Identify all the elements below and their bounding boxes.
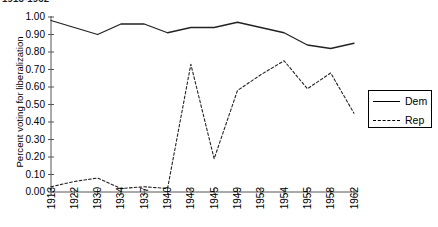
x-tick-label: 1945 xyxy=(209,187,220,227)
line-chart: 1913-1962 Percent voting for liberalizat… xyxy=(0,0,438,227)
legend-line-solid-icon xyxy=(373,96,400,106)
legend: Dem Rep xyxy=(368,90,432,128)
x-tick-label: 1922 xyxy=(69,187,80,227)
legend-label-rep: Rep xyxy=(405,115,424,125)
legend-line-dashed-icon xyxy=(373,115,400,125)
x-tick-label: 1953 xyxy=(255,187,266,227)
legend-label-dem: Dem xyxy=(405,96,427,106)
x-tick-label: 1934 xyxy=(115,187,126,227)
x-tick-label: 1940 xyxy=(162,187,173,227)
x-tick-label: 1955 xyxy=(302,187,313,227)
x-tick-label: 1949 xyxy=(232,187,243,227)
x-tick-label: 1937 xyxy=(139,187,150,227)
x-tick-label: 1958 xyxy=(325,187,336,227)
x-tick-label: 1930 xyxy=(92,187,103,227)
x-tick-label: 1913 xyxy=(46,187,57,227)
x-tick-label: 1954 xyxy=(279,187,290,227)
x-tick-label: 1943 xyxy=(185,187,196,227)
legend-entry-rep: Rep xyxy=(369,110,431,129)
x-tick-label: 1962 xyxy=(349,187,360,227)
legend-entry-dem: Dem xyxy=(369,91,431,110)
